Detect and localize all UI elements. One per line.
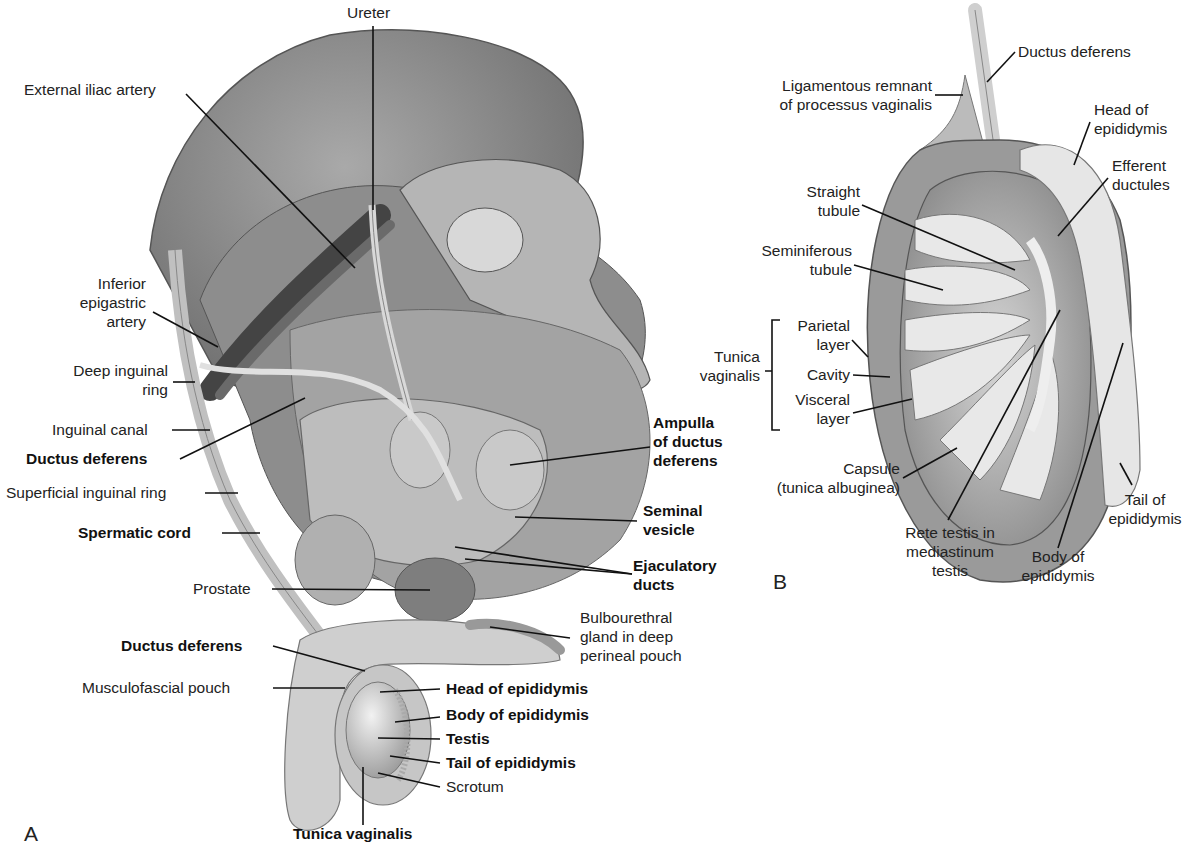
anatomy-illustration xyxy=(0,0,1192,857)
label-ureter: Ureter xyxy=(347,3,390,22)
label-external-iliac-artery: External iliac artery xyxy=(24,80,156,99)
label-ampulla-of-ductus-deferens: Ampulla of ductus deferens xyxy=(653,413,723,470)
label-cavity: Cavity xyxy=(780,365,850,384)
label-deep-inguinal-ring: Deep inguinal ring xyxy=(40,361,168,399)
label-body-of-epididymis-a: Body of epididymis xyxy=(446,705,589,724)
label-visceral-layer: Visceral layer xyxy=(780,390,850,428)
label-parietal-layer: Parietal layer xyxy=(780,316,850,354)
label-ligamentous-remnant: Ligamentous remnant of processus vaginal… xyxy=(740,76,932,114)
label-seminal-vesicle: Seminal vesicle xyxy=(643,501,702,539)
label-ductus-deferens-upper: Ductus deferens xyxy=(26,449,147,468)
label-seminiferous-tubule: Seminiferous tubule xyxy=(740,241,852,279)
label-tunica-vaginalis-a: Tunica vaginalis xyxy=(293,824,412,843)
label-efferent-ductules: Efferent ductules xyxy=(1112,156,1170,194)
label-head-of-epididymis-a: Head of epididymis xyxy=(446,679,588,698)
label-musculofascial-pouch: Musculofascial pouch xyxy=(82,678,230,697)
label-scrotum: Scrotum xyxy=(446,777,504,796)
panel-label-b: B xyxy=(773,570,787,594)
label-tail-of-epididymis-a: Tail of epididymis xyxy=(446,753,576,772)
label-body-of-epididymis-b: Body of epididymis xyxy=(1008,547,1108,585)
label-inguinal-canal: Inguinal canal xyxy=(52,420,148,439)
label-testis: Testis xyxy=(446,729,490,748)
panel-label-a: A xyxy=(24,822,38,846)
label-inferior-epigastric-artery: Inferior epigastric artery xyxy=(60,274,146,331)
label-tail-of-epididymis-b: Tail of epididymis xyxy=(1095,490,1192,528)
label-ductus-deferens-b: Ductus deferens xyxy=(1018,42,1131,61)
tunica-vaginalis-bracket xyxy=(765,320,780,430)
label-head-of-epididymis-b: Head of epididymis xyxy=(1094,100,1167,138)
label-tunica-vaginalis-b: Tunica vaginalis xyxy=(680,347,760,385)
label-capsule: Capsule (tunica albuginea) xyxy=(748,459,900,497)
label-superficial-inguinal-ring: Superficial inguinal ring xyxy=(6,483,166,502)
label-ductus-deferens-lower: Ductus deferens xyxy=(121,636,242,655)
label-bulbourethral-gland: Bulbourethral gland in deep perineal pou… xyxy=(580,608,682,665)
label-spermatic-cord: Spermatic cord xyxy=(78,523,191,542)
label-ejaculatory-ducts: Ejaculatory ducts xyxy=(633,556,717,594)
label-rete-testis: Rete testis in mediastinum testis xyxy=(890,523,1010,580)
label-prostate: Prostate xyxy=(193,579,251,598)
label-straight-tubule: Straight tubule xyxy=(780,182,860,220)
